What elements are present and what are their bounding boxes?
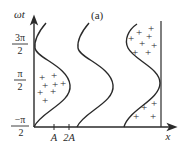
svg-text:+: + [128,32,134,44]
svg-text:+: + [60,77,66,89]
charge-markers-left: + + + + + + + + [37,69,66,106]
x-tick-label-2a: 2A [63,132,75,143]
svg-text:3π: 3π [15,32,25,43]
svg-text:+: + [151,97,157,109]
svg-text:π: π [17,68,22,79]
svg-text:+: + [151,39,157,51]
panel-label: (a) [91,9,104,22]
svg-text:+: + [42,94,48,106]
svg-text:+: + [150,110,156,122]
y-axis-label: ωt [14,8,26,20]
svg-text:2: 2 [18,81,23,92]
svg-text:+: + [141,101,147,113]
charge-markers-right-lower: + + + + [133,97,157,122]
x-axis-label: x [165,130,171,142]
svg-text:+: + [50,85,56,97]
svg-text:+: + [145,46,151,58]
diagram-canvas: + + + + + + + + + + + + + + + + + + + + … [0,0,184,151]
svg-text:+: + [132,46,138,58]
svg-text:+: + [133,110,139,122]
x-tick-label-a: A [50,132,58,143]
svg-text:−π: −π [15,114,26,125]
y-tick-3pi-2: 3π 2 [12,32,28,56]
svg-text:2: 2 [19,127,24,138]
middle-wave-curve [77,23,113,127]
y-tick-neg-pi-2: −π 2 [11,114,29,138]
svg-text:2: 2 [18,45,23,56]
y-tick-pi-2: π 2 [14,68,26,92]
